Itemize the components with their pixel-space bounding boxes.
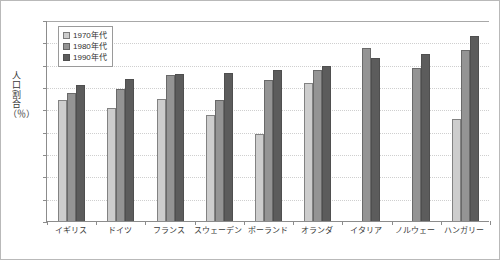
bar-group bbox=[293, 21, 342, 221]
legend-swatch-icon-1980s bbox=[63, 43, 70, 50]
bar bbox=[313, 70, 322, 221]
legend-swatch-icon-1990s bbox=[63, 54, 70, 61]
bar-group bbox=[195, 21, 244, 221]
x-tick-label: イギリス bbox=[55, 227, 87, 235]
bar bbox=[264, 80, 273, 221]
legend-item-1990s: 1990年代 bbox=[63, 52, 107, 63]
bar-group bbox=[145, 21, 194, 221]
bar-group-bars bbox=[293, 21, 342, 221]
bar bbox=[470, 36, 479, 221]
bar bbox=[322, 66, 331, 221]
x-tick-mark bbox=[293, 221, 294, 225]
bar bbox=[125, 79, 134, 221]
bar bbox=[304, 83, 313, 221]
x-tick-mark bbox=[342, 221, 343, 225]
bar-group bbox=[244, 21, 293, 221]
x-tick-mark bbox=[195, 221, 196, 225]
x-tick-mark bbox=[244, 221, 245, 225]
bar-group-bars bbox=[195, 21, 244, 221]
x-tick-mark bbox=[47, 221, 48, 225]
bar bbox=[157, 99, 166, 221]
bar-group-bars bbox=[244, 21, 293, 221]
bar bbox=[273, 70, 282, 221]
bar bbox=[175, 74, 184, 221]
bar bbox=[166, 75, 175, 221]
bar bbox=[215, 100, 224, 221]
legend-label-1970s: 1970年代 bbox=[73, 32, 107, 40]
x-tick-mark bbox=[490, 221, 491, 225]
legend-swatch-icon-1970s bbox=[63, 32, 70, 39]
x-tick-label: ハンガリー bbox=[444, 227, 484, 235]
bar bbox=[67, 93, 76, 221]
x-tick-mark bbox=[392, 221, 393, 225]
bar bbox=[452, 119, 461, 221]
x-tick-label: ドイツ bbox=[108, 227, 132, 235]
bar bbox=[58, 100, 67, 221]
bar bbox=[76, 85, 85, 221]
legend-label-1980s: 1980年代 bbox=[73, 43, 107, 51]
legend-item-1980s: 1980年代 bbox=[63, 41, 107, 52]
bar-group-bars bbox=[441, 21, 490, 221]
bar bbox=[224, 73, 233, 221]
chart-legend: 1970年代 1980年代 1990年代 bbox=[58, 26, 113, 67]
bar-group-bars bbox=[145, 21, 194, 221]
bar bbox=[461, 50, 470, 221]
bar-groups bbox=[47, 21, 489, 221]
x-tick-mark bbox=[145, 221, 146, 225]
legend-item-1970s: 1970年代 bbox=[63, 30, 107, 41]
bar bbox=[412, 68, 421, 221]
bar-group bbox=[342, 21, 391, 221]
bar-group-bars bbox=[342, 21, 391, 221]
x-tick-label: スウェーデン bbox=[194, 227, 242, 235]
x-tick-mark bbox=[441, 221, 442, 225]
bar bbox=[255, 134, 264, 221]
bar-group bbox=[441, 21, 490, 221]
x-tick-label: オランダ bbox=[301, 227, 333, 235]
bar-group bbox=[392, 21, 441, 221]
x-tick-label: イタリア bbox=[350, 227, 382, 235]
chart-screenshot: 人口割合（％） 051015202530354045 イギリスドイツフランススウ… bbox=[0, 0, 500, 260]
bar bbox=[107, 108, 116, 221]
bar bbox=[371, 58, 380, 221]
bar bbox=[421, 54, 430, 221]
x-tick-label: ノルウェー bbox=[395, 227, 435, 235]
x-tick-label: フランス bbox=[153, 227, 185, 235]
x-tick-label: ポーランド bbox=[248, 227, 288, 235]
bar bbox=[362, 48, 371, 221]
y-axis-title: 人口割合（％） bbox=[8, 72, 24, 119]
legend-label-1990s: 1990年代 bbox=[73, 54, 107, 62]
bar-group-bars bbox=[392, 21, 441, 221]
x-tick-mark bbox=[96, 221, 97, 225]
bar bbox=[206, 115, 215, 221]
bar bbox=[116, 89, 125, 221]
